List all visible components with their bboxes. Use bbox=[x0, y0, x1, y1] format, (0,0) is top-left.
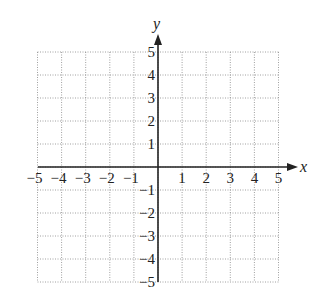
x-tick-label: −1 bbox=[123, 170, 139, 186]
axes: x y bbox=[38, 15, 307, 282]
x-tick-label: −3 bbox=[75, 170, 91, 186]
x-tick-label: 5 bbox=[275, 170, 283, 186]
y-axis-arrow-icon bbox=[154, 34, 162, 45]
x-tick-label: −5 bbox=[27, 170, 43, 186]
x-axis-arrow-icon bbox=[287, 163, 298, 171]
y-tick-label: 1 bbox=[148, 136, 156, 152]
y-axis-label: y bbox=[151, 15, 161, 33]
y-tick-label: −2 bbox=[139, 205, 155, 221]
y-tick-label: −3 bbox=[139, 228, 155, 244]
x-tick-label: 1 bbox=[178, 170, 186, 186]
x-tick-label: 4 bbox=[251, 170, 259, 186]
y-tick-label: −5 bbox=[139, 274, 155, 290]
x-tick-label: −4 bbox=[51, 170, 67, 186]
y-tick-label: 5 bbox=[148, 44, 156, 60]
x-axis-label: x bbox=[299, 158, 307, 175]
y-tick-label: 4 bbox=[148, 67, 156, 83]
y-tick-label: −1 bbox=[139, 182, 155, 198]
coordinate-plane: x y −5−4−3−2−112345 54321−1−2−3−4−5 bbox=[0, 0, 321, 305]
x-tick-label: 3 bbox=[227, 170, 235, 186]
y-tick-label: 2 bbox=[148, 113, 156, 129]
x-tick-label: 2 bbox=[202, 170, 210, 186]
y-tick-label: 3 bbox=[148, 90, 156, 106]
y-tick-label: −4 bbox=[139, 251, 155, 267]
x-tick-label: −2 bbox=[99, 170, 115, 186]
